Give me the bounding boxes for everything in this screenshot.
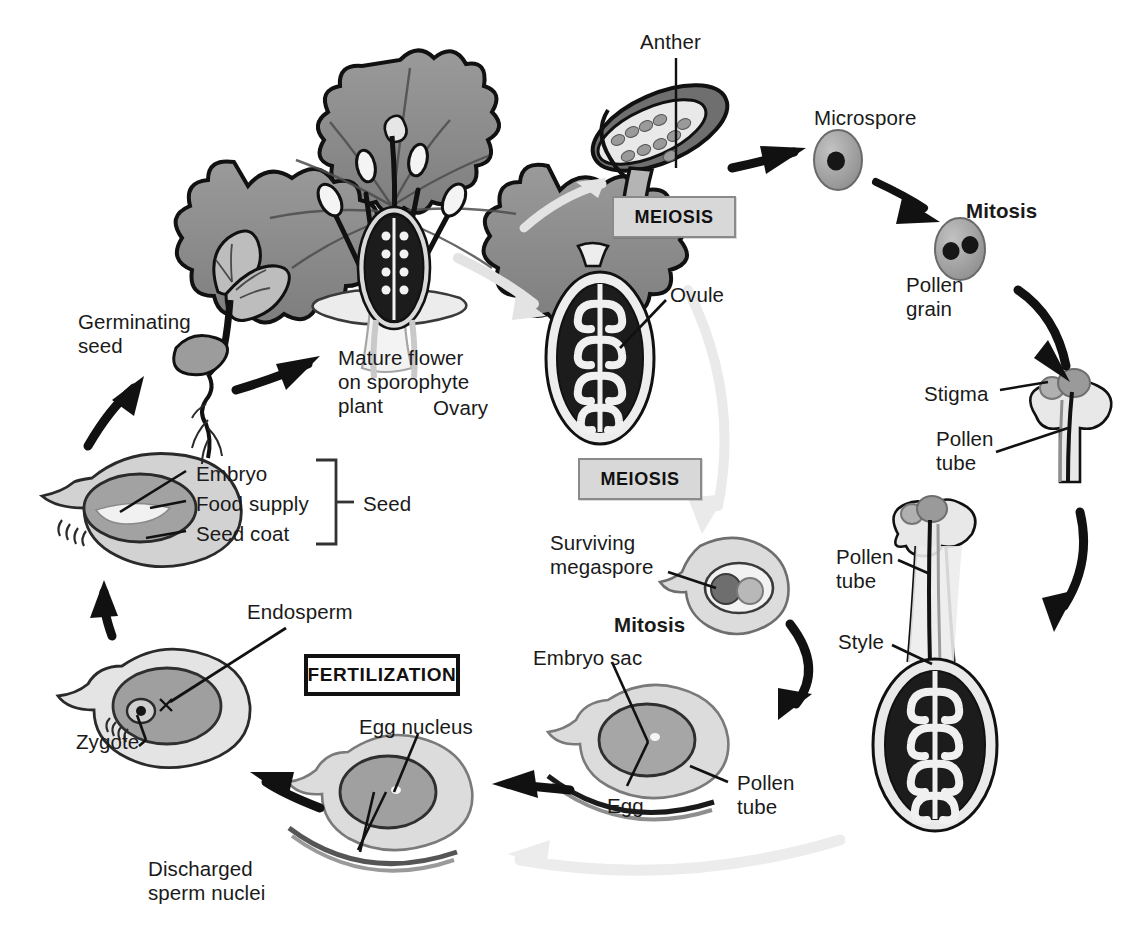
label-food-supply: Food supply (196, 492, 309, 517)
arrow-stigma-to-style (1042, 512, 1084, 632)
label-stigma: Stigma (924, 382, 988, 407)
arrow-seed-to-germinating-seed (88, 376, 144, 446)
label-pollen-tube-upper: Pollen tube (936, 427, 994, 475)
label-endosperm: Endosperm (247, 600, 353, 625)
label-seed: Seed (363, 492, 411, 517)
label-mitosis-female: Mitosis (614, 613, 685, 638)
label-egg-nucleus: Egg nucleus (359, 715, 473, 740)
label-embryo: Embryo (196, 462, 267, 487)
arrow-zygote-to-seed (90, 580, 118, 636)
label-anther: Anther (640, 30, 701, 55)
label-mature-flower: Mature flower on sporophyte plant (338, 346, 469, 419)
label-surviving-megaspore: Surviving megaspore (550, 531, 653, 579)
label-germinating-seed: Germinating seed (78, 310, 191, 358)
stage-box-meiosis-female: MEIOSIS (578, 458, 702, 500)
label-pollen-tube-style: Pollen tube (836, 545, 894, 593)
stigma-carpel-top (996, 369, 1111, 482)
pollen-grain-cell (935, 218, 985, 280)
label-ovule: Ovule (670, 283, 724, 308)
label-seed-coat: Seed coat (196, 522, 289, 547)
label-discharged-sperm-nuclei: Discharged sperm nuclei (148, 857, 265, 905)
stage-box-meiosis-male: MEIOSIS (612, 196, 736, 238)
arrow-pollen-grain-to-stigma (1018, 290, 1070, 382)
label-mitosis-male: Mitosis (966, 199, 1037, 224)
label-microspore: Microspore (814, 106, 916, 131)
label-pollen-grain: Pollen grain (906, 273, 964, 321)
microspore-cell (814, 130, 862, 190)
arrow-anther-to-microspore (732, 146, 806, 174)
arrow-bottom-return (508, 840, 840, 870)
label-zygote: Zygote (76, 730, 139, 755)
label-embryo-sac: Embryo sac (533, 646, 642, 671)
arrow-megaspore-to-embryo-sac (778, 624, 812, 720)
stage-box-fertilization: FERTILIZATION (304, 654, 460, 696)
label-egg: Egg (607, 794, 644, 819)
arrow-microspore-to-pollen-grain (876, 182, 940, 224)
label-pollen-tube-sac: Pollen tube (737, 771, 795, 819)
label-style: Style (838, 630, 884, 655)
angiosperm-life-cycle-diagram: MEIOSIS MEIOSIS FERTILIZATION Anther Mic… (0, 0, 1128, 937)
arrow-germinating-to-flower (236, 356, 320, 390)
